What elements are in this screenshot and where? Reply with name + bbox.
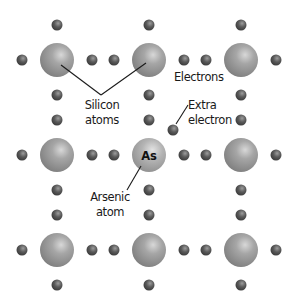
silicon-atom — [224, 233, 258, 267]
extra-electron — [168, 125, 179, 136]
electron — [87, 55, 98, 66]
arsenic-atom-label: Arsenic atom — [86, 190, 134, 220]
silicon-atom — [224, 43, 258, 77]
silicon-atom — [40, 138, 74, 172]
electron — [201, 245, 212, 256]
electron — [109, 150, 120, 161]
electron — [52, 90, 63, 101]
extra-electron-leader-line — [176, 105, 188, 124]
electron — [144, 280, 155, 291]
electron — [271, 55, 282, 66]
extra-electron-label: Extra electron — [188, 98, 232, 128]
electron — [236, 20, 247, 31]
silicon-leader-line-left — [61, 65, 101, 95]
electron — [109, 55, 120, 66]
electron — [201, 55, 212, 66]
extra-label-line1: Extra — [188, 98, 232, 113]
electron — [201, 150, 212, 161]
electron — [144, 20, 155, 31]
arsenic-symbol: As — [141, 149, 157, 163]
electron — [236, 90, 247, 101]
electron — [52, 280, 63, 291]
electron — [87, 245, 98, 256]
electron — [17, 150, 28, 161]
electron — [144, 210, 155, 221]
silicon-atom — [132, 43, 166, 77]
electron — [179, 55, 190, 66]
electron — [236, 210, 247, 221]
electron — [179, 150, 190, 161]
silicon-atom — [224, 138, 258, 172]
silicon-atom — [40, 233, 74, 267]
silicon-atom — [40, 43, 74, 77]
electron — [87, 150, 98, 161]
electron — [144, 90, 155, 101]
electron — [109, 245, 120, 256]
electron — [52, 185, 63, 196]
electrons-label: Electrons — [174, 70, 224, 85]
lattice-canvas: As — [0, 0, 297, 301]
electron — [179, 245, 190, 256]
electrons-label-text: Electrons — [174, 70, 224, 85]
arsenic-leader-line — [127, 166, 141, 190]
electron — [17, 55, 28, 66]
electron — [144, 115, 155, 126]
electron — [52, 115, 63, 126]
electron — [52, 210, 63, 221]
silicon-atom — [132, 233, 166, 267]
silicon-leader-line-right — [101, 63, 146, 95]
arsenic-label-line2: atom — [86, 205, 134, 220]
electron — [52, 20, 63, 31]
extra-label-line2: electron — [188, 113, 232, 128]
semiconductor-lattice-diagram: As Silicon atoms Electrons Extra electro… — [0, 0, 297, 301]
electron — [236, 115, 247, 126]
electron — [144, 185, 155, 196]
electron — [236, 280, 247, 291]
silicon-atoms-label: Silicon atoms — [80, 98, 124, 128]
silicon-label-line1: Silicon — [80, 98, 124, 113]
electron — [17, 245, 28, 256]
electron — [236, 185, 247, 196]
electron — [271, 245, 282, 256]
arsenic-label-line1: Arsenic — [86, 190, 134, 205]
electron — [271, 150, 282, 161]
silicon-label-line2: atoms — [80, 113, 124, 128]
